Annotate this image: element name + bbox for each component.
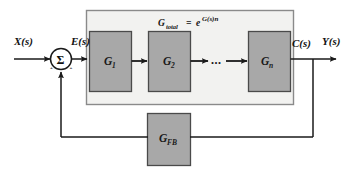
block-g2-subscript: 2 (170, 61, 175, 70)
label-plant-output-cs: C(s) (292, 37, 311, 50)
block-diagram-svg: G total = e G(s)n G 1 G 2 G n ... G (0, 0, 350, 177)
summing-sign-input: + (50, 65, 53, 70)
summing-sign-feedback: + (70, 65, 73, 70)
formula-g: G (158, 18, 165, 28)
summing-junction[interactable]: Σ + + (50, 49, 73, 71)
formula-equals: = (186, 18, 191, 28)
label-output-ys: Y(s) (322, 35, 340, 48)
formula-exponent: G(s)n (202, 15, 218, 23)
label-input-xs: X(s) (13, 35, 33, 48)
ellipsis-label: ... (211, 53, 222, 67)
block-gfb[interactable]: G FB (148, 114, 191, 166)
block-g1-subscript: 1 (112, 61, 116, 70)
block-gn[interactable]: G n (249, 32, 291, 92)
label-error-es: E(s) (70, 35, 90, 48)
block-gfb-subscript: FB (167, 138, 177, 147)
block-gn-subscript: n (269, 61, 273, 70)
sigma-icon: Σ (57, 53, 65, 67)
block-diagram-canvas: G total = e G(s)n G 1 G 2 G n ... G (0, 0, 350, 177)
block-g1[interactable]: G 1 (90, 32, 132, 92)
block-g2[interactable]: G 2 (149, 32, 191, 92)
formula-g-subscript: total (166, 23, 178, 30)
